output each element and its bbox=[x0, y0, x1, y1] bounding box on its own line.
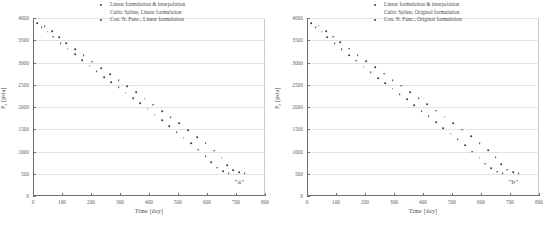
y-tick-mark bbox=[307, 85, 310, 86]
data-point bbox=[47, 31, 49, 33]
data-point bbox=[190, 143, 192, 145]
data-point bbox=[326, 36, 328, 38]
gridline bbox=[307, 40, 539, 41]
x-tick-label: 500 bbox=[174, 199, 182, 205]
data-point bbox=[502, 172, 504, 174]
data-point bbox=[392, 88, 394, 90]
legend-item-label: Con. N. Func., Original formulation bbox=[384, 16, 462, 22]
data-point bbox=[144, 98, 146, 100]
data-point bbox=[457, 139, 459, 141]
y-tick-mark bbox=[307, 174, 310, 175]
legend-item-label: Linear formulation & interpolation bbox=[384, 1, 459, 7]
gridline bbox=[33, 63, 265, 64]
data-point bbox=[161, 110, 163, 112]
x-tick-mark bbox=[510, 193, 511, 196]
x-tick-mark bbox=[265, 193, 266, 196]
data-point bbox=[506, 169, 508, 171]
x-tick-mark bbox=[62, 193, 63, 196]
data-point bbox=[399, 93, 401, 95]
data-point bbox=[409, 91, 411, 93]
x-tick-label: 800 bbox=[535, 199, 543, 205]
gridline bbox=[307, 152, 539, 153]
y-tick-label: 3500 bbox=[18, 37, 29, 43]
data-point bbox=[196, 136, 198, 138]
y-axis-label-b: Pr [psia] bbox=[274, 87, 282, 109]
y-axis-label-a: Pr [psia] bbox=[0, 87, 8, 109]
data-point bbox=[226, 164, 228, 166]
gridline bbox=[33, 85, 265, 86]
data-point bbox=[418, 97, 420, 99]
y-tick-label: 0 bbox=[26, 193, 29, 199]
y-tick-label: 1000 bbox=[18, 149, 29, 155]
data-point bbox=[427, 103, 429, 105]
data-point bbox=[118, 87, 120, 89]
data-point bbox=[479, 142, 481, 144]
x-tick-label: 100 bbox=[58, 199, 66, 205]
legend-item-label: Linear formulation & interpolation bbox=[110, 1, 185, 7]
x-tick-mark bbox=[452, 193, 453, 196]
data-point bbox=[470, 136, 472, 138]
gridline bbox=[307, 174, 539, 175]
y-tick-label: 3000 bbox=[292, 60, 303, 66]
data-point bbox=[168, 125, 170, 127]
data-point bbox=[74, 48, 76, 50]
data-point bbox=[41, 26, 43, 28]
x-tick-mark bbox=[423, 193, 424, 196]
data-point bbox=[340, 42, 342, 44]
data-point bbox=[384, 83, 386, 85]
gridline bbox=[307, 63, 539, 64]
y-tick-mark bbox=[307, 107, 310, 108]
data-point bbox=[383, 73, 385, 75]
data-point bbox=[363, 66, 365, 68]
x-tick-mark bbox=[394, 193, 395, 196]
data-point bbox=[332, 36, 334, 38]
data-point bbox=[238, 171, 240, 173]
panel-annotation-b: "b" bbox=[508, 178, 518, 186]
y-tick-mark bbox=[307, 40, 310, 41]
data-point bbox=[348, 54, 350, 56]
data-point bbox=[334, 43, 336, 45]
x-tick-mark bbox=[178, 193, 179, 196]
chart-panel-a: Pr [psia] 050010001500200025003000350040… bbox=[0, 0, 273, 231]
data-point bbox=[392, 79, 394, 81]
data-point bbox=[125, 92, 127, 94]
data-point bbox=[479, 157, 481, 159]
data-point bbox=[83, 55, 85, 57]
data-point bbox=[325, 30, 327, 32]
data-point bbox=[139, 103, 141, 105]
y-tick-label: 0 bbox=[300, 193, 303, 199]
x-tick-mark bbox=[33, 193, 34, 196]
chart-panel-b: Pr [psia] 050010001500200025003000350040… bbox=[274, 0, 547, 231]
y-tick-mark bbox=[33, 196, 36, 197]
plot-area-b: 05001000150020002500300035004000 0100200… bbox=[307, 18, 539, 196]
data-point bbox=[66, 42, 68, 44]
legend-item-label: Con. N. Func., Linear formulation bbox=[110, 16, 184, 22]
y-tick-label: 1000 bbox=[292, 149, 303, 155]
x-tick-mark bbox=[307, 193, 308, 196]
y-tick-mark bbox=[307, 129, 310, 130]
data-point bbox=[109, 73, 111, 75]
data-point bbox=[103, 76, 105, 78]
data-point bbox=[464, 144, 466, 146]
data-point bbox=[413, 104, 415, 106]
data-point bbox=[471, 151, 473, 153]
data-point bbox=[435, 110, 437, 112]
legend-item: Linear formulation & interpolation bbox=[96, 1, 185, 9]
x-tick-label: 100 bbox=[332, 199, 340, 205]
gridline bbox=[33, 107, 265, 108]
data-point bbox=[179, 123, 181, 125]
data-point bbox=[216, 167, 218, 169]
data-point bbox=[187, 129, 189, 131]
y-tick-label: 500 bbox=[21, 171, 29, 177]
data-point bbox=[428, 116, 430, 118]
data-point bbox=[374, 67, 376, 69]
x-tick-mark bbox=[91, 193, 92, 196]
gridline bbox=[33, 152, 265, 153]
data-point bbox=[153, 104, 155, 106]
data-point bbox=[500, 164, 502, 166]
x-tick-mark bbox=[120, 193, 121, 196]
x-axis-label-b: Time [day] bbox=[307, 208, 539, 214]
gridline bbox=[307, 107, 539, 108]
y-tick-label: 2000 bbox=[18, 104, 29, 110]
data-point bbox=[205, 143, 207, 145]
